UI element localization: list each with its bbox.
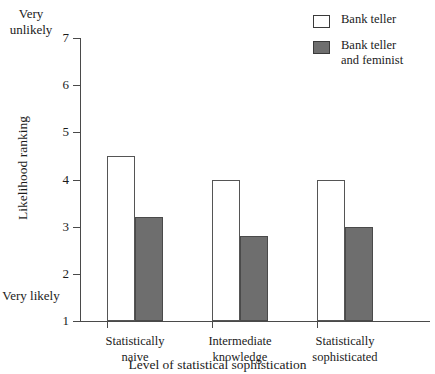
y-axis-tick-label: 1 [47,314,69,327]
legend-item-label: Bank teller [341,12,396,27]
x-axis-tick [107,321,108,328]
y-axis-tick [73,180,80,181]
y-axis-tick [73,38,80,39]
y-axis-tick-label: 6 [47,78,69,91]
x-axis-tick [212,321,213,328]
x-axis-title: Level of statistical sophistication [0,357,435,373]
y-axis-tick-label: 7 [47,31,69,44]
y-axis-tick-label: 3 [47,220,69,233]
x-axis-tick [317,321,318,328]
y-axis-tick [73,85,80,86]
y-axis-tick [73,274,80,275]
bar-bank-teller-and-feminist [135,217,163,321]
y-axis-tick [73,227,80,228]
open-square-icon [313,15,330,28]
bar-bank-teller-and-feminist [345,227,373,321]
bar-chart-figure: Bank teller Bank teller and feminist Ver… [0,0,435,374]
bar-bank-teller [107,156,135,321]
y-axis-title: Likelihood ranking [15,83,31,253]
plot-area: 7654321 Statistically naiveIntermediate … [80,38,430,321]
y-axis-tick-label: 4 [47,173,69,186]
y-axis-tick-label: 5 [47,125,69,138]
bar-bank-teller [317,180,345,322]
y-axis-tick [73,321,80,322]
y-axis-bottom-annotation: Very likely [2,288,60,304]
bar-bank-teller [212,180,240,322]
bar-bank-teller-and-feminist [240,236,268,321]
y-axis-tick [73,132,80,133]
y-axis-tick-label: 2 [47,267,69,280]
y-axis-line [80,38,81,322]
x-axis-line [80,321,430,322]
legend-item-bank-teller: Bank teller [313,12,435,28]
